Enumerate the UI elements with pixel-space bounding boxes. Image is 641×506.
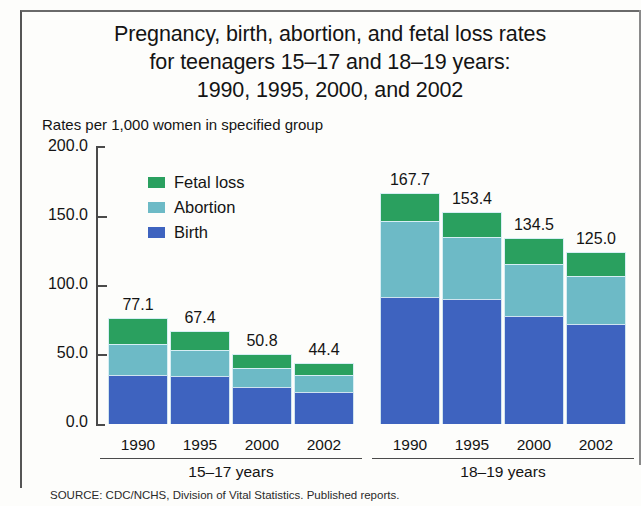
bar-segment-fetal-loss xyxy=(232,354,292,368)
x-axis-group-label: 18–19 years xyxy=(372,463,634,481)
bar-segment-birth xyxy=(442,299,502,424)
x-axis-group-label: 15–17 years xyxy=(100,463,362,481)
bar-segment-fetal-loss xyxy=(108,318,168,345)
figure-page: Pregnancy, birth, abortion, and fetal lo… xyxy=(0,0,641,506)
x-axis-labels: 1990199520002002199019952000200215–17 ye… xyxy=(0,430,641,490)
bar-segment-abortion xyxy=(294,375,354,392)
bar-segment-fetal-loss xyxy=(294,363,354,375)
stacked-bar xyxy=(380,193,440,424)
bar-total-label: 125.0 xyxy=(556,230,636,248)
bar-segment-birth xyxy=(566,324,626,424)
bar-segment-abortion xyxy=(232,368,292,387)
bar-segment-birth xyxy=(232,387,292,424)
stacked-bar xyxy=(442,212,502,424)
bar-segment-abortion xyxy=(108,344,168,375)
bar-total-label: 67.4 xyxy=(160,309,240,327)
stacked-bar xyxy=(108,318,168,424)
bar-segment-fetal-loss xyxy=(504,238,564,263)
bar-segment-abortion xyxy=(566,276,626,325)
stacked-bar xyxy=(294,363,354,424)
bar-segment-fetal-loss xyxy=(442,212,502,237)
bar-segment-birth xyxy=(504,316,564,424)
bar-segment-fetal-loss xyxy=(170,331,230,350)
stacked-bar xyxy=(170,331,230,424)
bar-segment-abortion xyxy=(442,237,502,299)
bar-segment-birth xyxy=(170,376,230,424)
bar-segment-fetal-loss xyxy=(566,252,626,276)
bar-total-label: 167.7 xyxy=(370,171,450,189)
bar-segment-abortion xyxy=(504,264,564,316)
stacked-bar xyxy=(566,252,626,425)
x-axis-group-rule xyxy=(100,458,362,459)
bar-segment-birth xyxy=(108,375,168,424)
x-axis-group-rule xyxy=(372,458,634,459)
stacked-bar xyxy=(504,238,564,424)
bar-segment-birth xyxy=(294,392,354,424)
bar-segment-abortion xyxy=(380,221,440,297)
bar-total-label: 44.4 xyxy=(284,341,364,359)
bar-total-label: 153.4 xyxy=(432,190,512,208)
bar-segment-fetal-loss xyxy=(380,193,440,221)
source-note: SOURCE: CDC/NCHS, Division of Vital Stat… xyxy=(50,489,399,501)
x-axis-year-label: 2002 xyxy=(558,436,634,454)
bar-segment-abortion xyxy=(170,350,230,376)
bar-segment-birth xyxy=(380,297,440,424)
stacked-bar xyxy=(232,354,292,424)
x-axis-year-label: 2002 xyxy=(286,436,362,454)
